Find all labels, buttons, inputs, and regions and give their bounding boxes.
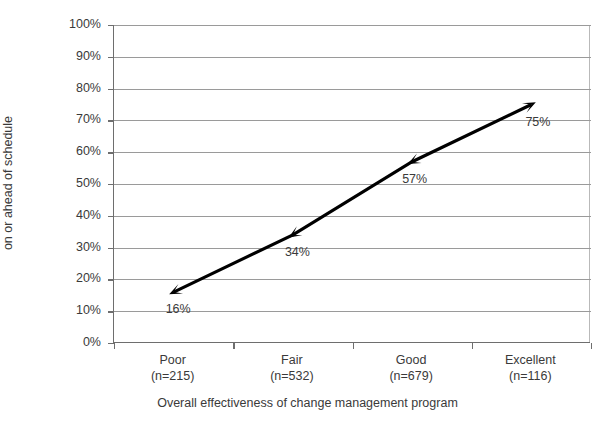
y-axis-tick-label: 100%	[57, 17, 101, 31]
x-axis-tick	[591, 343, 592, 349]
data-point-label: 34%	[285, 245, 310, 259]
y-axis-tick-label: 60%	[57, 144, 101, 158]
chart-figure: Percent of respondents that were on or a…	[0, 0, 615, 426]
x-axis-tick	[472, 343, 473, 349]
data-point-label: 16%	[166, 302, 191, 316]
y-axis-tick-label: 80%	[57, 81, 101, 95]
x-axis-tick	[353, 343, 354, 349]
data-series-line	[114, 25, 591, 343]
y-axis-tick-label: 30%	[57, 240, 101, 254]
y-axis-tick-label: 0%	[57, 335, 101, 349]
y-axis-tick-label: 10%	[57, 303, 101, 317]
y-axis-title-line-2: on or ahead of schedule	[0, 116, 16, 250]
data-point-label: 75%	[525, 115, 550, 129]
x-axis-title: Overall effectiveness of change manageme…	[0, 396, 615, 410]
y-axis-tick-label: 50%	[57, 176, 101, 190]
x-axis-tick	[233, 343, 234, 349]
data-point-label: 57%	[402, 172, 427, 186]
x-axis-category-label: Excellent(n=116)	[460, 352, 600, 384]
series-line	[174, 105, 532, 293]
plot-area: 16%34%57%75%	[113, 25, 590, 343]
y-axis-tick-label: 40%	[57, 208, 101, 222]
y-axis-tick-label: 70%	[57, 112, 101, 126]
category-name: Excellent	[460, 352, 600, 368]
category-count: (n=116)	[460, 368, 600, 384]
y-axis-tick-label: 90%	[57, 49, 101, 63]
x-axis-tick	[114, 343, 115, 349]
y-axis-title: Percent of respondents that were on or a…	[0, 23, 22, 343]
y-axis-tick-label: 20%	[57, 271, 101, 285]
